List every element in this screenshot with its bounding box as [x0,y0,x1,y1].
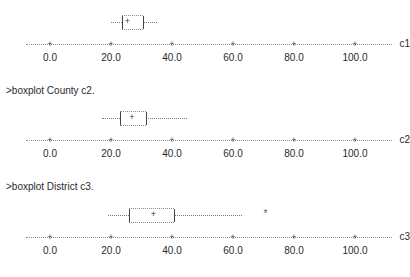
axis-tick-glyph-c2-100: + [352,136,357,145]
boxplot-canvas-c3: + * c3 +0.0+20.0+40.0+60.0+80.0+100.0 [0,193,382,245]
axis-name-c1: c1 [400,39,410,49]
axis-tick-label-c1-80: 80.0 [284,53,303,63]
axis-tick-glyph-c2-80: + [291,136,296,145]
axis-tick-label-c2-80: 80.0 [284,149,303,159]
axis-tick-label-c3-80: 80.0 [284,246,303,256]
axis-tick-label-c3-100: 100.0 [342,246,367,256]
whisker-right-c1 [143,22,157,24]
axis-line-c2 [26,140,392,142]
boxplot-canvas-c2: + c2 +0.0+20.0+40.0+60.0+80.0+100.0 [0,96,382,148]
whisker-left-c1 [111,22,122,24]
boxplot-block-c3: + * c3 +0.0+20.0+40.0+60.0+80.0+100.0 [0,193,382,245]
axis-tick-glyph-c2-20: + [108,136,113,145]
box-bottom-c2 [120,125,146,127]
axis-tick-glyph-c1-80: + [291,40,296,49]
axis-tick-glyph-c2-60: + [230,136,235,145]
axis-name-c3: c3 [400,232,410,242]
axis-tick-label-c2-100: 100.0 [342,149,367,159]
axis-name-c2: c2 [400,135,410,145]
box-left-edge-c3 [129,209,130,222]
box-bottom-c3 [129,222,173,224]
median-marker-c2: + [129,113,134,122]
boxplot-canvas-c1: + c1 +0.0+20.0+40.0+60.0+80.0+100.0 [0,0,382,52]
axis-tick-label-c2-40: 40.0 [162,149,181,159]
box-left-edge-c2 [120,112,121,125]
axis-tick-label-c1-60: 60.0 [223,53,242,63]
axis-tick-glyph-c3-40: + [169,233,174,242]
whisker-left-c3 [108,215,129,217]
axis-tick-glyph-c2-40: + [169,136,174,145]
box-bottom-c1 [122,29,143,31]
axis-tick-glyph-c1-40: + [169,40,174,49]
box-right-edge-c2 [146,112,147,125]
axis-tick-label-c1-100: 100.0 [342,53,367,63]
command-line-boxplot-district[interactable]: >boxplot District c3. [6,181,94,193]
axis-tick-label-c2-60: 60.0 [223,149,242,159]
axis-tick-glyph-c3-20: + [108,233,113,242]
boxplot-block-c2: + c2 +0.0+20.0+40.0+60.0+80.0+100.0 [0,96,382,148]
axis-tick-label-c1-40: 40.0 [162,53,181,63]
whisker-left-c2 [102,118,120,120]
median-marker-c1: + [125,17,130,26]
axis-tick-glyph-c3-100: + [352,233,357,242]
axis-tick-glyph-c1-100: + [352,40,357,49]
axis-tick-label-c1-20: 20.0 [101,53,120,63]
axis-tick-label-c2-20: 20.0 [101,149,120,159]
axis-tick-label-c2-0: 0.0 [43,149,57,159]
axis-line-c1 [26,44,392,46]
box-right-edge-c1 [143,16,144,29]
axis-tick-glyph-c1-0: + [47,40,52,49]
axis-tick-label-c3-40: 40.0 [162,246,181,256]
axis-line-c3 [26,237,392,239]
box-right-edge-c3 [174,209,175,222]
axis-tick-label-c3-20: 20.0 [101,246,120,256]
axis-tick-glyph-c3-60: + [230,233,235,242]
axis-tick-label-c3-60: 60.0 [223,246,242,256]
median-marker-c3: + [151,210,156,219]
whisker-right-c2 [146,118,187,120]
axis-tick-label-c3-0: 0.0 [43,246,57,256]
whisker-right-c3 [174,215,243,217]
box-left-edge-c1 [122,16,123,29]
axis-tick-glyph-c3-80: + [291,233,296,242]
axis-tick-glyph-c1-60: + [230,40,235,49]
axis-tick-label-c1-0: 0.0 [43,53,57,63]
axis-tick-glyph-c3-0: + [47,233,52,242]
axis-tick-glyph-c2-0: + [47,136,52,145]
axis-tick-glyph-c1-20: + [108,40,113,49]
boxplot-block-c1: + c1 +0.0+20.0+40.0+60.0+80.0+100.0 [0,0,382,52]
outlier-marker-c3: * [264,209,268,219]
